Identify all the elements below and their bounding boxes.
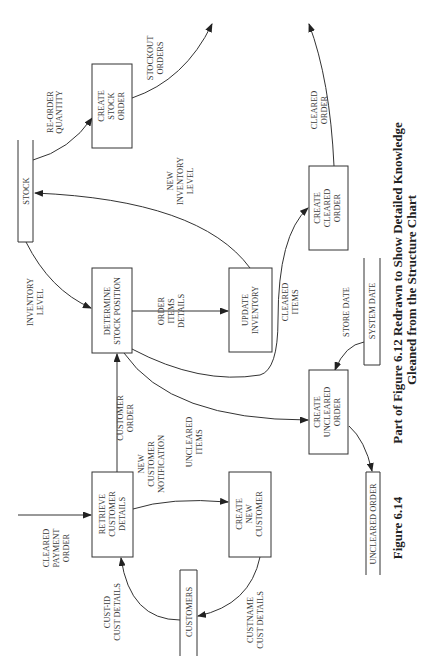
flow-label-line: NEW — [166, 171, 175, 190]
label-custname-cust-details: CUSTNAME CUST DETAILS — [246, 591, 265, 649]
flow-label-line: STOCKOUT — [146, 36, 155, 81]
process-label-line: CUSTOMER — [108, 491, 117, 537]
flow-label-line: CUST DETAILS — [256, 591, 265, 649]
flow-label-line: NOTIFICATION — [157, 435, 166, 493]
label-customer-order: CUSTOMER ORDER — [116, 395, 135, 441]
data-store-customers: CUSTOMERS — [180, 570, 197, 656]
flow-label-line: RE-ORDER — [46, 91, 55, 133]
process-label-line: CREATE — [97, 90, 106, 122]
process-label-line: INVENTORY — [251, 286, 260, 334]
process-label-line: CLEARED — [323, 189, 332, 228]
flow-stockout-orders — [132, 24, 212, 98]
process-create-uncleared-order: CREATE UNCLEARED ORDER — [309, 370, 348, 454]
flow-label-line: STORE DATE — [342, 287, 351, 337]
flow-label-line: ORDER — [320, 95, 329, 124]
process-label-line: RETRIEVE — [98, 494, 107, 534]
data-store-uncleared-order-label: UNCLEARED ORDER — [369, 483, 378, 565]
flow-label-line: INVENTORY — [176, 157, 185, 205]
flow-label-line: CUSTOMER — [147, 441, 156, 487]
caption-title-line-1: Part of Figure 6.12 Redrawn to Show Deta… — [390, 122, 405, 444]
process-label-line: ORDER — [333, 193, 342, 222]
label-order-items-details: ORDER ITEMS DETAILS — [157, 294, 186, 329]
flow-uncleared-order — [349, 426, 372, 471]
flow-label-line: ITEMS — [291, 289, 300, 314]
process-update-inventory: UPDATE INVENTORY — [229, 268, 272, 352]
process-label-line: CUSTOMER — [255, 491, 264, 537]
flow-label-line: CUSTOMER — [116, 395, 125, 441]
process-label-line: ORDER — [333, 397, 342, 426]
data-store-uncleared-order: UNCLEARED ORDER — [366, 472, 380, 575]
figure-caption: Figure 6.14 Part of Figure 6.12 Redrawn … — [390, 122, 419, 559]
flow-label-line: LEVEL — [36, 289, 45, 316]
process-create-stock-order: CREATE STOCK ORDER — [92, 64, 132, 148]
figure-number: Figure 6.14 — [390, 496, 405, 559]
process-label-line: CREATE — [235, 498, 244, 530]
flow-label-line: CUST DETAILS — [113, 583, 122, 641]
process-label-line: DETERMINE — [103, 287, 112, 335]
label-re-order-quantity: RE-ORDER QUANTITY — [46, 90, 64, 133]
flow-label-line: UNCLEARED — [185, 417, 194, 468]
data-store-customers-label: CUSTOMERS — [185, 587, 194, 637]
flow-new-customer-notification — [133, 501, 228, 509]
label-new-inventory-level: NEW INVENTORY LEVEL — [166, 157, 195, 205]
flow-label-line: ORDER — [157, 296, 166, 325]
process-label-line: STOCK POSITION — [113, 277, 122, 345]
data-store-system-date: SYSTEM DATE — [364, 258, 380, 365]
label-stockout-orders: STOCKOUT ORDERS — [146, 36, 165, 81]
data-store-stock-label: STOCK — [22, 177, 31, 204]
flow-label-line: ORDER — [62, 533, 71, 562]
process-label-line: DETAILS — [118, 497, 127, 532]
flow-uncleared-items — [124, 353, 308, 420]
data-store-stock: STOCK — [18, 140, 33, 242]
flow-label-line: QUANTITY — [55, 90, 64, 133]
flow-label-line: ORDERS — [156, 41, 165, 74]
label-uncleared-items: UNCLEARED ITEMS — [185, 417, 204, 468]
process-label-line: STOCK — [107, 92, 116, 119]
label-inventory-level: INVENTORY LEVEL — [26, 278, 45, 326]
flow-label-line: NEW — [137, 454, 146, 473]
flow-label-line: ITEMS — [195, 429, 204, 454]
process-label-line: CREATE — [313, 192, 322, 224]
process-label-line: UNCLEARED — [323, 387, 332, 438]
flow-label-line: CLEARED — [310, 91, 319, 130]
process-label-line: ORDER — [117, 91, 126, 120]
label-new-customer-notification: NEW CUSTOMER NOTIFICATION — [137, 435, 166, 493]
flow-label-line: ITEMS — [167, 298, 176, 323]
label-cleared-payment-order: CLEARED PAYMENT ORDER — [42, 529, 71, 568]
flow-label-line: CLEARED — [42, 529, 51, 568]
process-create-new-customer: CREATE NEW CUSTOMER — [229, 472, 271, 557]
process-create-cleared-order: CREATE CLEARED ORDER — [309, 166, 348, 250]
process-label-line: NEW — [245, 504, 254, 523]
label-cleared-items: CLEARED ITEMS — [281, 283, 300, 322]
flow-label-line: DETAILS — [177, 294, 186, 329]
label-cust-id-cust-details: CUST-ID CUST DETAILS — [103, 583, 122, 641]
flow-label-line: LEVEL — [186, 168, 195, 195]
process-label-line: UPDATE — [241, 294, 250, 326]
flow-label-line: ORDER — [126, 403, 135, 432]
label-cleared-order: CLEARED ORDER — [310, 91, 329, 130]
flow-new-inventory-level — [35, 193, 250, 268]
data-store-system-date-label: SYSTEM DATE — [368, 283, 377, 340]
process-retrieve-customer-details: RETRIEVE CUSTOMER DETAILS — [92, 472, 133, 557]
flow-label-line: CLEARED — [281, 283, 290, 322]
flow-label-line: CUSTNAME — [246, 597, 255, 643]
flow-label-line: CUST-ID — [103, 596, 112, 628]
label-store-date: STORE DATE — [342, 287, 351, 337]
flow-label-line: INVENTORY — [26, 278, 35, 326]
caption-title-line-2: Gleaned from the Structure Chart — [404, 194, 419, 385]
process-label-line: CREATE — [313, 396, 322, 428]
flow-label-line: PAYMENT — [52, 529, 61, 568]
flow-cust-id-cust-details — [121, 558, 180, 620]
process-determine-stock-position: DETERMINE STOCK POSITION — [92, 268, 132, 353]
flow-store-date — [335, 342, 364, 370]
data-flow-diagram: STOCK SYSTEM DATE UNCLEARED ORDER CUSTOM… — [0, 0, 421, 656]
